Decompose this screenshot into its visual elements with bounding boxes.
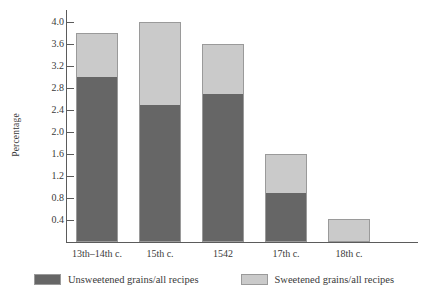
y-tick-label: 3.6 (52, 38, 65, 50)
y-tick-mark (67, 154, 74, 155)
bar-segment-sweetened (139, 22, 181, 105)
y-tick-label: 1.6 (52, 148, 65, 160)
y-tick-label: 3.2 (52, 60, 65, 72)
y-tick-5: 2.4 (18, 104, 74, 116)
y-tick-8: 3.6 (18, 38, 74, 50)
y-tick-mark (67, 22, 74, 23)
x-tick-label-4: 18th c. (308, 248, 390, 259)
y-tick-0: 0.4 (18, 214, 74, 226)
bar-segment-unsweetened (139, 105, 181, 243)
y-tick-mark (67, 132, 74, 133)
y-tick-9: 4.0 (18, 16, 74, 28)
bar-segment-sweetened (265, 154, 307, 193)
legend-swatch-sweetened (241, 274, 268, 285)
y-tick-label: 2.0 (52, 126, 65, 138)
legend-swatch-unsweetened (34, 274, 61, 285)
y-tick-2: 1.2 (18, 170, 74, 182)
y-tick-mark (67, 220, 74, 221)
bar-segment-sweetened (76, 33, 118, 77)
bar-segment-sweetened (202, 44, 244, 94)
bar-segment-unsweetened (265, 193, 307, 243)
y-tick-mark (67, 110, 74, 111)
legend-entry-unsweetened: Unsweetened grains/all recipes (34, 274, 199, 285)
plot-area: 0.4 0.8 1.2 1.6 2.0 2.4 2.8 3.2 (66, 10, 418, 243)
y-tick-6: 2.8 (18, 82, 74, 94)
y-tick-label: 2.4 (52, 104, 65, 116)
y-tick-label: 1.2 (52, 170, 65, 182)
chart-figure: Percentage 0.4 0.8 1.2 1.6 2.0 2.4 (0, 0, 428, 298)
y-tick-mark (67, 88, 74, 89)
y-tick-mark (67, 66, 74, 67)
y-tick-label: 4.0 (52, 16, 65, 28)
y-tick-3: 1.6 (18, 148, 74, 160)
x-axis-line (66, 242, 418, 243)
chart-legend: Unsweetened grains/all recipes Sweetened… (0, 274, 428, 285)
bar-segment-unsweetened (202, 94, 244, 243)
y-tick-mark (67, 44, 74, 45)
bar-segment-unsweetened (76, 77, 118, 242)
y-tick-7: 3.2 (18, 60, 74, 72)
legend-label-unsweetened: Unsweetened grains/all recipes (68, 274, 199, 285)
y-tick-1: 0.8 (18, 192, 74, 204)
y-tick-label: 0.8 (52, 192, 65, 204)
legend-entry-sweetened: Sweetened grains/all recipes (241, 274, 395, 285)
y-tick-label: 2.8 (52, 82, 65, 94)
y-tick-mark (67, 198, 74, 199)
bar-segment-sweetened (328, 219, 370, 242)
y-tick-4: 2.0 (18, 126, 74, 138)
legend-label-sweetened: Sweetened grains/all recipes (275, 274, 395, 285)
y-tick-mark (67, 176, 74, 177)
y-tick-label: 0.4 (52, 214, 65, 226)
